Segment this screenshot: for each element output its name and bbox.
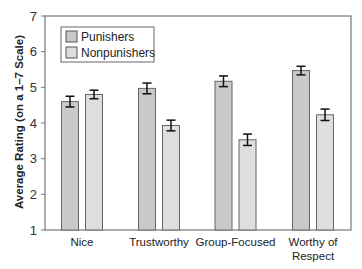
x-category-label: Group-Focused: [196, 236, 276, 248]
bar-chart: 1234567NiceTrustworthyGroup-FocusedWorth…: [0, 0, 362, 269]
y-axis-label: Average Rating (on a 1–7 Scale): [13, 27, 25, 217]
legend-label: Nonpunishers: [81, 46, 155, 60]
legend-swatch: [66, 47, 77, 58]
x-category-label: Worthy of: [289, 236, 339, 248]
x-category-label: Nice: [70, 236, 93, 248]
y-tick-label: 6: [30, 44, 37, 59]
y-tick-label: 5: [30, 80, 37, 95]
x-category-label: Trustworthy: [129, 236, 189, 248]
legend-label: Punishers: [81, 30, 134, 44]
y-tick-label: 7: [30, 9, 37, 24]
bar-nonpunishers: [239, 140, 256, 230]
legend-swatch: [66, 31, 77, 42]
y-tick-label: 1: [30, 223, 37, 238]
bar-punishers: [293, 71, 310, 230]
bar-nonpunishers: [163, 125, 180, 230]
bar-nonpunishers: [86, 94, 103, 230]
x-category-label: Respect: [292, 250, 335, 262]
bar-punishers: [62, 102, 79, 230]
y-tick-label: 4: [30, 116, 37, 131]
bar-nonpunishers: [317, 115, 334, 230]
bar-punishers: [215, 81, 232, 230]
y-tick-label: 2: [30, 187, 37, 202]
bar-punishers: [139, 88, 156, 230]
y-tick-label: 3: [30, 151, 37, 166]
